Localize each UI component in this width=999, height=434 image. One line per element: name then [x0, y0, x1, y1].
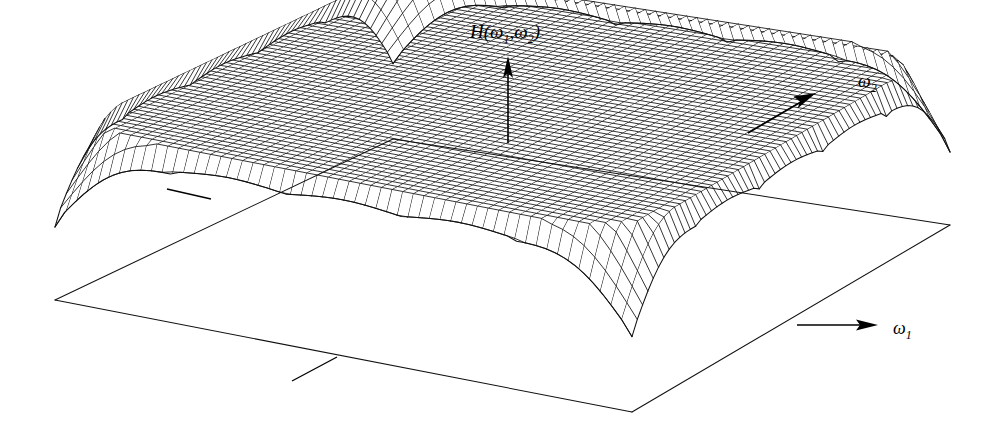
h-label-omega2: ω: [514, 21, 527, 42]
h-label-close: ): [533, 21, 540, 43]
h-label-omega1: ω: [490, 21, 503, 42]
omega1-subscript: 1: [906, 328, 912, 342]
omega1-symbol: ω: [893, 318, 906, 338]
h-label-base: H(: [469, 21, 492, 43]
surface-plot: H(ω1,ω2) ω2 ω1: [0, 0, 999, 434]
omega2-symbol: ω: [858, 71, 871, 91]
figure-canvas: H(ω1,ω2) ω2 ω1: [0, 0, 999, 434]
omega2-subscript: 2: [871, 81, 877, 95]
